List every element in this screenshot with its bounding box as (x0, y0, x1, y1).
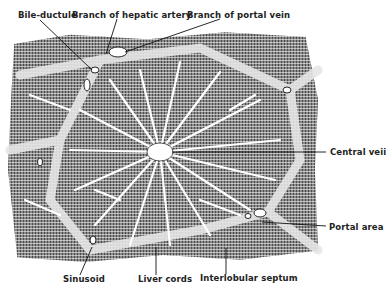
central-vein (147, 143, 173, 161)
label-liver-cords: Liver cords (138, 274, 192, 284)
label-portal-vein: Branch of portal vein (187, 10, 290, 20)
label-sinusoid: Sinusoid (63, 274, 105, 284)
label-hepatic-artery: Branch of hepatic artery (72, 10, 192, 20)
label-bile-ductule: Bile-ductule (18, 10, 77, 20)
label-interlobular-septum: Interlobular septum (200, 273, 298, 283)
label-portal-area: Portal area (329, 222, 383, 232)
label-central-vein: Central veii (330, 147, 386, 157)
